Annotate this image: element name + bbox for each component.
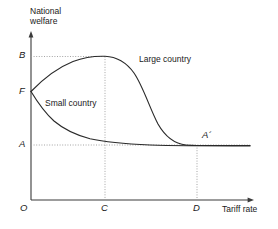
y-axis-title-line1: National xyxy=(30,6,61,16)
x-tick-label-c: C xyxy=(101,202,108,213)
curve-label-large-country: Large country xyxy=(139,54,191,64)
curve-label-small-country: Small country xyxy=(45,98,97,108)
x-axis-title: Tariff rate xyxy=(222,204,257,214)
y-tick-label-f: F xyxy=(19,85,25,96)
x-axis-arrow xyxy=(248,198,254,203)
y-axis-title-line2: welfare xyxy=(30,16,57,26)
origin-label-o: O xyxy=(20,202,27,213)
x-tick-label-d: D xyxy=(193,202,200,213)
y-axis-title: Nationalwelfare xyxy=(30,6,61,26)
y-tick-label-a: A xyxy=(19,138,25,149)
y-axis-arrow xyxy=(29,31,34,37)
chart-plot-area xyxy=(0,0,278,229)
welfare-tariff-chart: Nationalwelfare Tariff rate B F A O C D … xyxy=(0,0,278,229)
y-tick-label-b: B xyxy=(19,49,25,60)
point-label-a-prime: A´ xyxy=(202,129,212,140)
